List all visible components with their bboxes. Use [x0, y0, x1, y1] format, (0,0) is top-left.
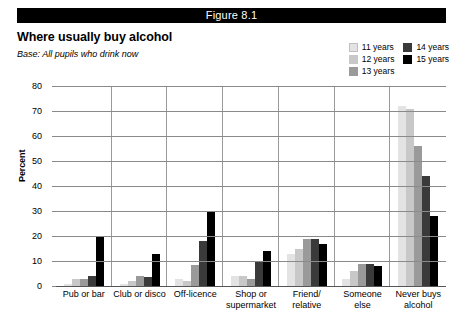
y-tick-mark — [52, 86, 56, 87]
x-tick-label: Pub or bar — [56, 289, 112, 311]
legend-label: 15 years — [416, 55, 449, 64]
x-tick-label: Off-licence — [167, 289, 223, 311]
gridline — [56, 286, 446, 287]
legend-item: 15 years — [403, 53, 449, 65]
legend-label: 11 years — [362, 43, 394, 52]
y-tick-label: 30 — [12, 207, 42, 216]
bar — [255, 262, 263, 286]
bar — [207, 211, 215, 286]
bar — [88, 276, 96, 286]
page-title: Where usually buy alcohol — [17, 30, 317, 44]
plot-area: 01020304050607080 — [56, 86, 446, 286]
legend-label: 14 years — [416, 43, 449, 52]
bar — [342, 279, 350, 287]
base-note: Base: All pupils who drink now — [17, 49, 317, 60]
bar — [72, 279, 80, 287]
y-tick-mark — [52, 261, 56, 262]
bar — [80, 279, 88, 287]
y-tick-label: 60 — [12, 132, 42, 141]
gridline — [56, 236, 446, 237]
y-tick-label: 0 — [12, 282, 42, 291]
bar — [319, 244, 327, 287]
x-tick-label: Shop or supermarket — [223, 289, 279, 311]
x-tick-label: Never buys alcohol — [390, 289, 446, 311]
y-axis-label: Percent — [17, 122, 27, 182]
legend-swatch-icon — [349, 43, 358, 52]
y-tick-label: 40 — [12, 182, 42, 191]
bar — [398, 106, 406, 286]
figure-number-bar: Figure 8.1 — [17, 8, 446, 23]
bar — [295, 249, 303, 287]
chart-legend: 11 years12 years13 years14 years15 years — [349, 41, 449, 77]
bar — [152, 254, 160, 287]
legend-item: 11 years — [349, 41, 395, 53]
gridline — [56, 161, 446, 162]
bar — [414, 146, 422, 286]
plot-wrapper: Percent 01020304050607080 Pub or barClub… — [17, 86, 446, 327]
y-tick-label: 50 — [12, 157, 42, 166]
y-tick-label: 80 — [12, 82, 42, 91]
figure-header: Where usually buy alcohol Base: All pupi… — [17, 30, 317, 60]
bar — [247, 279, 255, 287]
bar — [136, 276, 144, 286]
bar — [422, 176, 430, 286]
bar — [144, 277, 152, 286]
bar — [303, 239, 311, 287]
legend-swatch-icon — [349, 55, 358, 64]
y-tick-mark — [52, 161, 56, 162]
gridline — [56, 136, 446, 137]
y-tick-mark — [52, 186, 56, 187]
bar — [366, 264, 374, 287]
y-tick-mark — [52, 211, 56, 212]
x-tick-label: Club or disco — [112, 289, 168, 311]
legend-label: 12 years — [362, 55, 395, 64]
bar — [358, 264, 366, 287]
legend-swatch-icon — [403, 55, 412, 64]
y-tick-label: 70 — [12, 107, 42, 116]
legend-item: 13 years — [349, 65, 395, 77]
x-axis-labels: Pub or barClub or discoOff-licenceShop o… — [56, 289, 446, 311]
x-tick-label: Friend/ relative — [279, 289, 335, 311]
bar — [311, 239, 319, 287]
gridline — [56, 261, 446, 262]
legend-item: 14 years — [403, 41, 449, 53]
bar — [374, 266, 382, 286]
bar — [175, 279, 183, 287]
bar — [231, 276, 239, 286]
legend-swatch-icon — [403, 43, 412, 52]
y-tick-label: 20 — [12, 232, 42, 241]
gridline — [56, 86, 446, 87]
x-tick-label: Someone else — [335, 289, 391, 311]
gridline — [56, 186, 446, 187]
y-tick-mark — [52, 136, 56, 137]
y-tick-mark — [52, 111, 56, 112]
legend-label: 13 years — [362, 67, 395, 76]
gridline — [56, 111, 446, 112]
bar — [263, 251, 271, 286]
legend-swatch-icon — [349, 67, 358, 76]
bar — [239, 276, 247, 286]
y-tick-label: 10 — [12, 257, 42, 266]
bar — [350, 271, 358, 286]
y-tick-mark — [52, 286, 56, 287]
legend-item: 12 years — [349, 53, 395, 65]
figure-container: Figure 8.1 Where usually buy alcohol Bas… — [0, 0, 461, 333]
y-tick-mark — [52, 236, 56, 237]
gridline — [56, 211, 446, 212]
bar — [287, 254, 295, 287]
bar — [199, 241, 207, 286]
bar — [191, 265, 199, 286]
bar — [430, 216, 438, 286]
